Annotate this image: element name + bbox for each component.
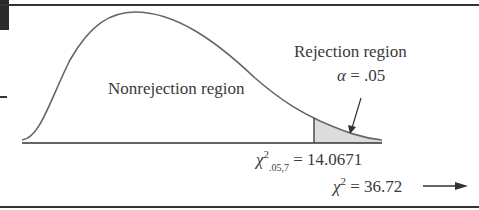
observed-value: = 36.72 [350, 177, 402, 196]
observed-value-label: χ2 = 36.72 [333, 175, 402, 197]
critical-sub: .05,7 [269, 162, 289, 173]
nonrejection-label: Nonrejection region [108, 79, 244, 99]
observed-arrow-head [455, 182, 468, 190]
chi-square-diagram [0, 0, 479, 210]
alpha-value: = .05 [350, 66, 385, 85]
alpha-pointer [352, 98, 361, 128]
distribution-curve [22, 12, 382, 140]
observed-sup: 2 [340, 175, 346, 187]
alpha-label: α = .05 [337, 66, 385, 86]
critical-sup: 2 [263, 148, 269, 160]
rejection-label: Rejection region [294, 42, 407, 62]
critical-value: = 14.0671 [293, 150, 362, 169]
alpha-symbol: α [337, 66, 346, 85]
critical-value-label: χ2.05,7 = 14.0671 [256, 148, 362, 171]
